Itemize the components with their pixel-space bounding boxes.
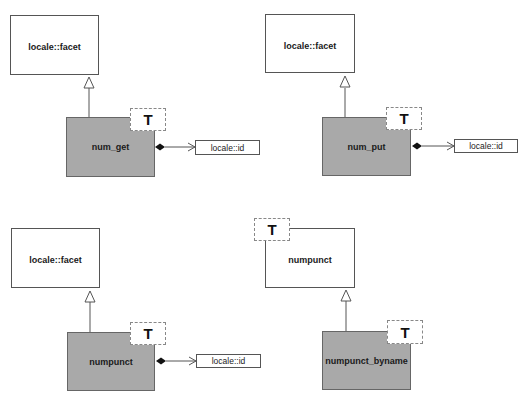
class-box-locale-facet-2: locale::facet bbox=[265, 14, 355, 73]
class-label: locale::facet bbox=[29, 255, 82, 265]
inheritance-arrow-num_put bbox=[340, 76, 350, 117]
template-param-label: T bbox=[143, 325, 152, 342]
inheritance-arrow-numpunct bbox=[85, 291, 95, 332]
composition-arrow-num_get bbox=[155, 143, 195, 151]
class-label: numpunct bbox=[89, 357, 133, 367]
class-box-locale-id-2: locale::id bbox=[454, 139, 518, 153]
template-param-box: T bbox=[130, 108, 166, 131]
composition-arrow-numpunct bbox=[156, 357, 196, 365]
template-param-label: T bbox=[267, 221, 276, 238]
template-param-box: T bbox=[387, 320, 423, 344]
class-label: numpunct_byname bbox=[325, 356, 408, 366]
composition-arrow-num_put bbox=[412, 142, 454, 150]
template-param-box: T bbox=[130, 322, 166, 345]
class-label: numpunct bbox=[288, 255, 332, 265]
template-param-label: T bbox=[400, 324, 409, 341]
class-box-locale-facet-1: locale::facet bbox=[10, 15, 99, 75]
class-label: locale::facet bbox=[284, 41, 337, 51]
class-label: num_put bbox=[348, 142, 386, 152]
template-param-box: T bbox=[254, 218, 290, 241]
class-label: locale::id bbox=[212, 356, 246, 366]
class-box-locale-id-3: locale::id bbox=[196, 354, 261, 368]
class-label: locale::id bbox=[469, 141, 503, 151]
inheritance-arrow-numpunct_byname bbox=[341, 290, 351, 331]
class-box-locale-id-1: locale::id bbox=[195, 140, 260, 155]
template-param-label: T bbox=[143, 111, 152, 128]
inheritance-arrow-num_get bbox=[84, 77, 94, 117]
class-label: num_get bbox=[92, 142, 130, 152]
class-label: locale::facet bbox=[28, 42, 81, 52]
class-label: locale::id bbox=[211, 143, 245, 153]
class-box-locale-facet-3: locale::facet bbox=[11, 228, 100, 288]
template-param-label: T bbox=[399, 110, 408, 127]
template-param-box: T bbox=[386, 107, 422, 130]
